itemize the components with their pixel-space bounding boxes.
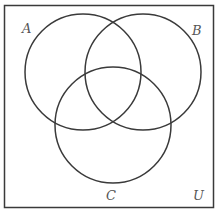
set-a-circle: [25, 14, 141, 130]
venn-diagram: A B C U: [0, 0, 218, 211]
set-b-label: B: [191, 23, 202, 38]
set-b-circle: [85, 14, 201, 130]
set-c-circle: [55, 67, 171, 183]
universe-label: U: [193, 188, 205, 203]
set-c-label: C: [106, 188, 116, 203]
set-a-label: A: [21, 21, 31, 36]
